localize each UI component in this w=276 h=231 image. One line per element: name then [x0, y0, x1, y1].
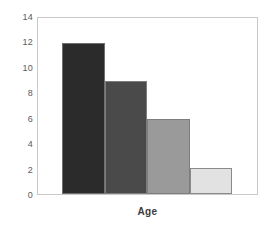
y-tick-label: 10 [0, 64, 33, 73]
y-tick-label: 8 [0, 89, 33, 98]
y-tick-label: 2 [0, 166, 33, 175]
bar [62, 43, 105, 194]
y-tick-label: 4 [0, 140, 33, 149]
bar-chart: 02468101214 Age [0, 0, 276, 231]
y-tick-label: 0 [0, 191, 33, 200]
bars-container [38, 18, 257, 194]
y-tick-label: 14 [0, 13, 33, 22]
x-axis-title: Age [37, 206, 258, 217]
y-axis: 02468101214 [0, 17, 33, 195]
y-tick-label: 12 [0, 38, 33, 47]
y-tick-label: 6 [0, 115, 33, 124]
bar [190, 168, 233, 194]
bar [147, 119, 190, 194]
bar [105, 81, 148, 194]
